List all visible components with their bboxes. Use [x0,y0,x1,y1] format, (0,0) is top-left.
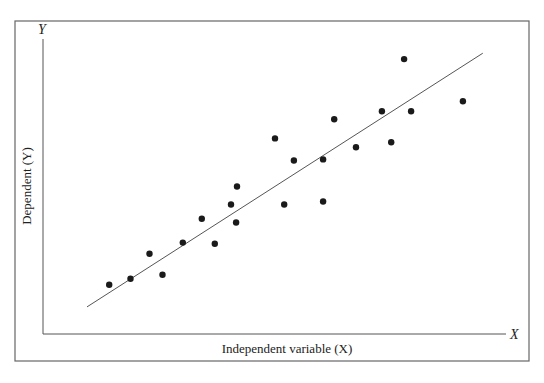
data-point [228,201,234,207]
data-point [353,144,359,150]
data-point [331,116,337,122]
x-axis-letter: X [509,327,519,342]
data-point [212,241,218,247]
data-point [460,98,466,104]
x-axis-label: Independent variable (X) [222,341,353,356]
y-axis-letter: Y [38,22,48,37]
data-point [106,282,112,288]
data-point [234,183,240,189]
regression-line [87,53,483,307]
y-axis-label: Dependent (Y) [19,147,34,225]
data-point [146,251,152,257]
data-point [180,239,186,245]
data-point [408,108,414,114]
data-point [281,201,287,207]
data-point [127,276,133,282]
scatter-plot: Y X Independent variable (X) Dependent (… [0,0,544,383]
figure-frame [15,21,529,361]
data-point [320,156,326,162]
data-points [106,56,466,288]
data-point [320,198,326,204]
data-point [159,272,165,278]
data-point [199,216,205,222]
data-point [233,219,239,225]
data-point [291,157,297,163]
data-point [272,135,278,141]
data-point [388,139,394,145]
data-point [401,56,407,62]
data-point [379,108,385,114]
